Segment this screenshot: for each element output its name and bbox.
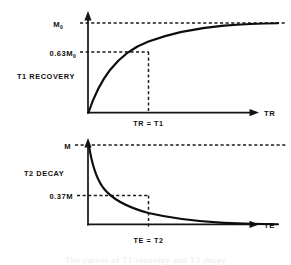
t1-recovery-title: T1 RECOVERY: [17, 72, 75, 81]
figure-canvas: M0 0.63M0 T1 RECOVERY TR = T1 TR: [0, 0, 291, 265]
t2-037m-label: 0.37M: [49, 192, 73, 201]
t2-decay-chart: M 0.37M T2 DECAY TE = T2 TE: [24, 138, 286, 245]
t1-tr-equals-t1-label: TR = T1: [133, 119, 163, 128]
t2-decay-title: T2 DECAY: [24, 169, 64, 178]
t2-m-label: M: [64, 142, 71, 151]
t2-te-equals-t2-label: TE = T2: [134, 236, 164, 245]
t1-recovery-chart: M0 0.63M0 T1 RECOVERY TR = T1 TR: [17, 11, 286, 128]
t1-063m0-label: 0.63M0: [50, 49, 77, 59]
t1-recovery-curve: [89, 23, 279, 112]
cut-off-caption: The curves of T1 recovery and T2 decay: [0, 254, 291, 265]
t2-x-axis-label: TE: [264, 221, 275, 230]
t1-x-axis-arrowhead: [250, 109, 260, 116]
t1-y-axis-arrowhead: [84, 11, 91, 21]
t2-y-axis-arrowhead: [84, 138, 91, 148]
t1-x-axis-label: TR: [264, 109, 275, 118]
t2-decay-curve: [89, 146, 278, 225]
mri-relaxation-figure: M0 0.63M0 T1 RECOVERY TR = T1 TR: [0, 0, 291, 265]
t1-m0-label: M0: [53, 20, 63, 30]
